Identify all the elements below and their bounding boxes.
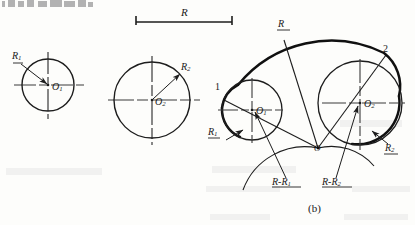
outer-envelope-arc xyxy=(222,41,400,108)
tangent-point-2-marker xyxy=(385,54,387,56)
construction-arc-one-label: R-R1 xyxy=(272,177,291,188)
composite-circle-two-center-label: O2 xyxy=(364,99,375,110)
figure-caption: (b) xyxy=(308,203,321,214)
circle-two-center-label: O2 xyxy=(155,97,166,108)
composite-circle-one-center-dot xyxy=(251,109,254,112)
composite-big-radius-label: R xyxy=(278,19,284,29)
tangent-point-1-marker xyxy=(223,99,225,101)
circle-one-radius-label: R1 xyxy=(12,51,22,62)
composite-circle-two-center-dot xyxy=(359,102,362,105)
composite-r1-leader xyxy=(226,130,243,140)
composite-tangent-point-2-label: 2 xyxy=(383,44,388,54)
leader-r-minus-r1 xyxy=(255,112,286,178)
construction-arc-r-minus-r2 xyxy=(318,146,374,166)
circle-one-group xyxy=(13,52,84,119)
big-radius-line-R xyxy=(284,40,318,148)
composite-tangent-point-1-label: 1 xyxy=(215,82,220,92)
construction-arc-two-label: R-R2 xyxy=(322,177,341,188)
leader-r-minus-r2 xyxy=(336,106,358,178)
figure-page: R R1 O1 R2 O2 R 1 2 O1 O2 R1 R2 O R-R1 R… xyxy=(0,0,415,225)
line-o-to-o1-extended xyxy=(224,100,318,148)
circle-one-center-label: O1 xyxy=(52,82,63,93)
composite-circle-two-radius-label: R2 xyxy=(385,143,395,154)
circle-two-radius-label: R2 xyxy=(181,62,191,73)
figure-canvas xyxy=(0,0,415,225)
composite-figure-group xyxy=(0,0,405,190)
composite-circle-one-radius-label: R1 xyxy=(208,127,218,138)
circle-two-center-dot xyxy=(151,99,154,102)
composite-center-o-label: O xyxy=(314,144,321,153)
composite-circle-one-center-label: O1 xyxy=(256,106,267,117)
top-dimension-label: R xyxy=(181,7,188,18)
circle-one-center-dot xyxy=(47,84,50,87)
